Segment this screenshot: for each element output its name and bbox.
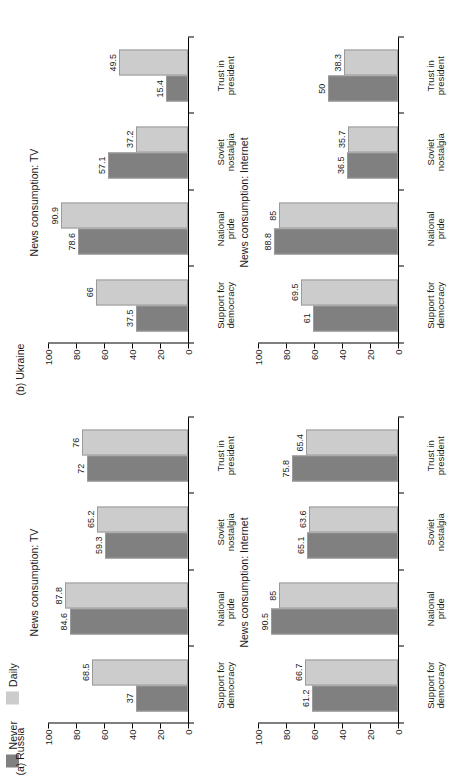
category-label-line: democracy	[436, 267, 446, 344]
category-label-line: nostalgia	[226, 114, 236, 191]
bar-group: 59.365.2Sovietnostalgia	[48, 494, 188, 571]
bar-group: 78.690.9Nationalpride	[48, 190, 188, 267]
bar-daily: 37.2	[136, 126, 188, 152]
plot-area: 61.266.7Support fordemocracy90.585Nation…	[258, 417, 398, 723]
category-label: Support fordemocracy	[216, 267, 237, 344]
bar-value-label: 90.5	[260, 612, 270, 630]
category-label-line: president	[226, 37, 236, 114]
panel-label-russia: (a) Russia	[14, 727, 26, 775]
x-axis-separator	[398, 36, 404, 37]
bar-group: 7276Trust inpresident	[48, 417, 188, 494]
chart-title: News consumption: TV	[28, 27, 40, 377]
category-label: Trust inpresident	[426, 417, 447, 494]
bar-value-label: 35.7	[337, 130, 347, 148]
bar-value-label: 90.9	[50, 206, 60, 224]
chart-title: News consumption: TV	[28, 407, 40, 757]
y-tick-mark	[370, 723, 371, 728]
y-tick-label: 100	[43, 349, 54, 373]
category-label: Nationalpride	[216, 570, 237, 647]
chart-title: News consumption: Internet	[238, 407, 250, 757]
y-tick-label: 60	[309, 729, 320, 753]
y-axis: 100806040200	[48, 349, 188, 377]
y-tick-mark	[286, 723, 287, 728]
category-label: Support fordemocracy	[426, 267, 447, 344]
y-tick-mark	[370, 343, 371, 348]
category-label-line: president	[436, 417, 446, 494]
y-tick-mark	[398, 723, 399, 728]
figure-stage: Never Daily (a) Russia (b) Ukraine News …	[0, 0, 450, 781]
y-tick-label: 60	[99, 349, 110, 373]
bar-daily: 85	[279, 202, 398, 228]
category-label-line: democracy	[226, 647, 236, 724]
bar-group: 88.885Nationalpride	[258, 190, 398, 267]
bar-daily: 90.9	[61, 202, 188, 228]
bar-pair: 75.865.4	[258, 417, 398, 494]
bar-pair: 90.585	[258, 570, 398, 647]
category-label-line: pride	[226, 570, 236, 647]
panel-label-ukraine: (b) Ukraine	[14, 343, 26, 395]
bar-never: 78.6	[78, 228, 188, 254]
bar-group: 36.535.7Sovietnostalgia	[258, 114, 398, 191]
bar-daily: 38.3	[344, 49, 398, 75]
bar-never: 65.1	[307, 532, 398, 558]
bar-pair: 15.449.5	[48, 37, 188, 114]
y-tick-label: 60	[309, 349, 320, 373]
bar-never: 59.3	[105, 532, 188, 558]
bar-never: 61	[313, 305, 398, 331]
category-label-line: democracy	[436, 647, 446, 724]
category-label: Support fordemocracy	[216, 647, 237, 724]
x-axis-separator	[188, 646, 194, 647]
bar-daily: 65.2	[97, 506, 188, 532]
bar-never: 15.4	[166, 75, 188, 101]
category-label: Sovietnostalgia	[216, 494, 237, 571]
bar-daily: 76	[82, 429, 188, 455]
bar-group: 84.687.8Nationalpride	[48, 570, 188, 647]
bar-daily: 69.5	[301, 279, 398, 305]
category-label-line: pride	[436, 190, 446, 267]
bar-never: 57.1	[108, 152, 188, 178]
bar-pair: 84.687.8	[48, 570, 188, 647]
bar-never: 90.5	[271, 608, 398, 634]
bar-pair: 7276	[48, 417, 188, 494]
category-label: Nationalpride	[426, 570, 447, 647]
category-label: Sovietnostalgia	[426, 114, 447, 191]
bar-never: 37.5	[136, 305, 189, 331]
bar-group: 61.266.7Support fordemocracy	[258, 647, 398, 724]
y-tick-mark	[132, 343, 133, 348]
bar-pair: 3768.5	[48, 647, 188, 724]
y-tick-mark	[258, 343, 259, 348]
x-axis-separator	[398, 189, 404, 190]
x-axis-separator	[398, 113, 404, 114]
y-tick-mark	[342, 343, 343, 348]
bar-pair: 61.266.7	[258, 647, 398, 724]
category-label-line: pride	[436, 570, 446, 647]
y-tick-label: 80	[71, 729, 82, 753]
bar-group: 90.585Nationalpride	[258, 570, 398, 647]
bar-group: 37.566Support fordemocracy	[48, 267, 188, 344]
bar-never: 72	[87, 455, 188, 481]
bar-value-label: 66.7	[294, 663, 304, 681]
y-tick-label: 20	[365, 729, 376, 753]
category-label: Trust inpresident	[216, 417, 237, 494]
panel-grid: (a) Russia (b) Ukraine News consumption:…	[0, 0, 450, 781]
bar-value-label: 61	[302, 313, 312, 323]
x-axis-separator	[188, 113, 194, 114]
bar-never: 36.5	[347, 152, 398, 178]
bar-value-label: 61.2	[301, 689, 311, 707]
plot-area: 6169.5Support fordemocracy88.885National…	[258, 37, 398, 343]
chart-russia-internet: News consumption: Internet10080604020061…	[238, 407, 434, 757]
bar-value-label: 38.3	[333, 53, 343, 71]
category-label-line: pride	[226, 190, 236, 267]
y-tick-mark	[160, 343, 161, 348]
bar-value-label: 50	[317, 83, 327, 93]
bar-value-label: 36.5	[336, 156, 346, 174]
y-tick-mark	[398, 343, 399, 348]
bar-value-label: 72	[76, 463, 86, 473]
bar-group: 65.163.6Sovietnostalgia	[258, 494, 398, 571]
bar-never: 84.6	[70, 608, 188, 634]
category-label-line: president	[226, 417, 236, 494]
y-tick-mark	[314, 723, 315, 728]
bar-pair: 6169.5	[258, 267, 398, 344]
bar-group: 75.865.4Trust inpresident	[258, 417, 398, 494]
bar-pair: 88.885	[258, 190, 398, 267]
